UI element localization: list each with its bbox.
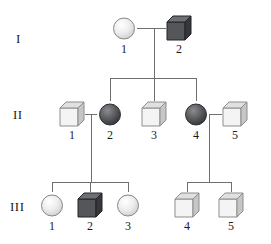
generation-label-II: II — [13, 107, 23, 123]
filled-square-icon — [77, 192, 103, 218]
open-circle-icon — [111, 15, 137, 41]
individual-number-II-1: 1 — [58, 128, 86, 143]
open-square-icon — [141, 101, 167, 127]
open-square-icon — [218, 192, 244, 218]
open-circle-icon — [115, 192, 141, 218]
open-square-icon — [59, 101, 85, 127]
individual-number-III-3: 3 — [114, 219, 142, 234]
individual-number-II-3: 3 — [140, 128, 168, 143]
filled-circle-icon — [97, 101, 123, 127]
individual-number-I-1: 1 — [110, 42, 138, 57]
individual-number-II-2: 2 — [96, 128, 124, 143]
open-square-icon — [222, 101, 248, 127]
individual-number-III-4: 4 — [173, 219, 201, 234]
open-circle-icon — [39, 192, 65, 218]
individual-number-III-1: 1 — [38, 219, 66, 234]
generation-label-III: III — [10, 199, 25, 215]
filled-circle-icon — [183, 101, 209, 127]
individual-number-III-5: 5 — [217, 219, 245, 234]
filled-square-icon — [166, 15, 192, 41]
individual-number-I-2: 2 — [165, 42, 193, 57]
pedigree-chart: IIIIII 1 2 1 2 3 4 5 1 2 3 4 — [0, 0, 271, 244]
individual-number-II-5: 5 — [221, 128, 249, 143]
open-square-icon — [174, 192, 200, 218]
individual-number-III-2: 2 — [76, 219, 104, 234]
individual-number-II-4: 4 — [182, 128, 210, 143]
generation-label-I: I — [16, 31, 21, 47]
